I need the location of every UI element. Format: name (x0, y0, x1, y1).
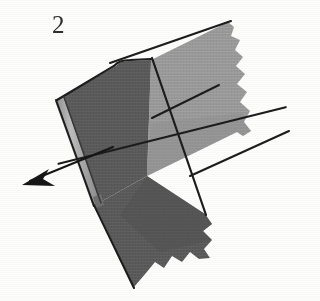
figure-drawing (0, 0, 320, 301)
figure-container: 2 (0, 0, 320, 301)
figure-number-label: 2 (52, 12, 65, 37)
